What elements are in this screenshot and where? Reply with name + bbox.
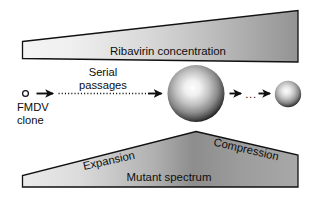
- large-mutant-spectrum-sphere: [168, 65, 225, 122]
- ellipsis-label: ...: [245, 88, 256, 100]
- mutant-spectrum-label: Mutant spectrum: [127, 171, 212, 183]
- figure-canvas: Ribavirin concentration FMDV clone Seria…: [0, 0, 325, 201]
- small-mutant-spectrum-sphere: [275, 81, 301, 107]
- ribavirin-concentration-label: Ribavirin concentration: [110, 45, 226, 57]
- diagram-svg: Ribavirin concentration FMDV clone Seria…: [0, 0, 325, 201]
- mutant-spectrum-wedge: Expansion Compression Mutant spectrum: [23, 132, 299, 188]
- fmdv-clone-circle: [23, 91, 29, 97]
- serial-passages-label-line2: passages: [79, 79, 127, 91]
- fmdv-clone-label-line2: clone: [17, 114, 44, 126]
- serial-passages-label-line1: Serial: [89, 66, 118, 78]
- ribavirin-concentration-wedge: Ribavirin concentration: [23, 11, 299, 63]
- fmdv-clone-label-line1: FMDV: [17, 101, 49, 113]
